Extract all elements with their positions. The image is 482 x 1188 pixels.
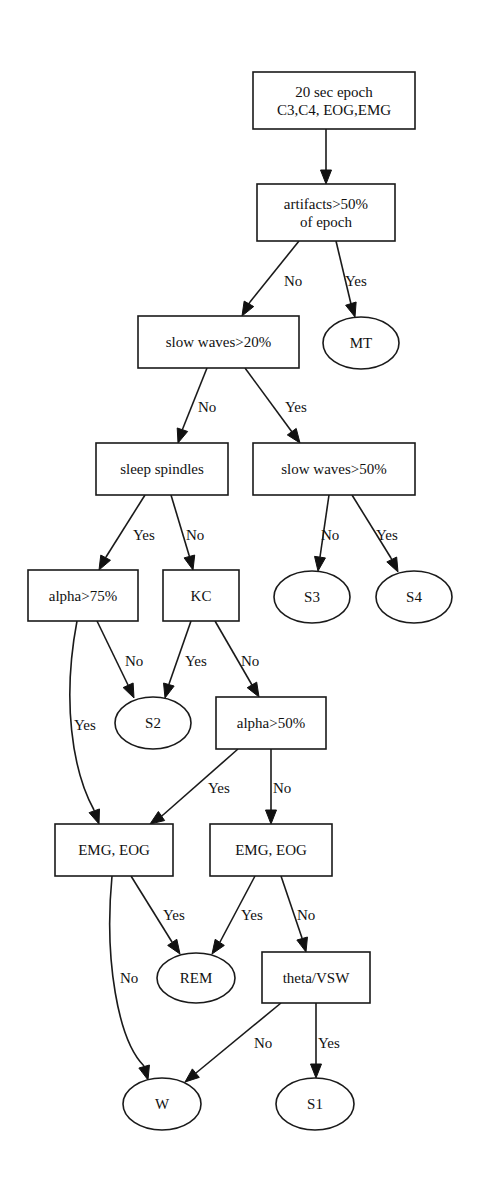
edge-sw20-to-spindles: No	[177, 368, 216, 443]
arrowhead-icon	[164, 683, 175, 698]
arrowhead-icon	[242, 301, 254, 316]
decision-tree-diagram: NoYesNoYesYesNoNoYesNoYesNoYesNoYesYesYe…	[0, 0, 482, 1188]
node-W: W	[123, 1078, 201, 1130]
node-label: S2	[145, 715, 161, 731]
decision-box	[253, 72, 415, 129]
arrowhead-icon	[387, 557, 398, 572]
edge-line	[183, 368, 207, 428]
edge-label-yes: Yes	[133, 527, 155, 543]
node-label: slow waves>20%	[166, 334, 272, 350]
diagram-canvas: NoYesNoYesYesNoNoYesNoYesNoYesNoYesYesYe…	[0, 0, 482, 1188]
node-sw50: slow waves>50%	[253, 443, 415, 495]
edge-sw50-to-S3: No	[315, 495, 340, 571]
edge-label-yes: Yes	[345, 273, 367, 289]
node-label: 20 sec epoch	[295, 84, 373, 100]
edge-label-no: No	[321, 527, 339, 543]
edge-spindles-to-KC: No	[171, 495, 204, 570]
nodes-layer: 20 sec epochC3,C4, EOG,EMGartifacts>50%o…	[28, 72, 452, 1130]
edge-label-no: No	[284, 273, 302, 289]
node-label: W	[155, 1096, 170, 1112]
node-REM: REM	[157, 953, 235, 1003]
arrowhead-icon	[150, 812, 165, 824]
arrowhead-icon	[346, 302, 357, 317]
edge-label-no: No	[186, 527, 204, 543]
edge-label-no: No	[120, 970, 138, 986]
node-label: theta/VSW	[283, 970, 350, 986]
node-label: slow waves>50%	[281, 461, 387, 477]
arrowhead-icon	[139, 1065, 150, 1080]
arrowhead-icon	[266, 810, 277, 824]
edge-label-yes: Yes	[163, 907, 185, 923]
arrowhead-icon	[212, 939, 224, 954]
edge-artifacts-to-sw20: No	[242, 241, 302, 316]
edge-label-yes: Yes	[241, 907, 263, 923]
node-label: alpha>75%	[49, 588, 117, 604]
node-label: REM	[180, 970, 213, 986]
node-label: of epoch	[300, 214, 353, 230]
node-label: artifacts>50%	[284, 196, 368, 212]
edge-sw50-to-S4: Yes	[352, 495, 398, 572]
arrowhead-icon	[287, 428, 300, 443]
node-S1: S1	[276, 1078, 354, 1130]
node-label: C3,C4, EOG,EMG	[277, 102, 391, 118]
edge-line	[250, 241, 299, 302]
edge-emgR-to-REM: Yes	[212, 876, 263, 954]
edge-emgR-to-theta: No	[281, 876, 315, 952]
decision-box	[257, 184, 395, 241]
edge-alpha75-to-S2: No	[97, 621, 143, 698]
arrowhead-icon	[297, 937, 308, 952]
arrowhead-icon	[168, 939, 180, 954]
edge-theta-to-W: No	[185, 1003, 281, 1082]
arrowhead-icon	[184, 555, 195, 570]
node-artifacts: artifacts>50%of epoch	[257, 184, 395, 241]
edge-alpha50-to-emgL: Yes	[150, 749, 238, 824]
node-S3: S3	[274, 571, 350, 623]
node-spindles: sleep spindles	[96, 443, 228, 495]
node-MT: MT	[323, 317, 399, 369]
edge-alpha50-to-emgR: No	[266, 749, 292, 824]
node-emgL: EMG, EOG	[55, 824, 173, 876]
edge-alpha75-to-emgL: Yes	[70, 621, 100, 824]
node-emgR: EMG, EOG	[210, 824, 332, 876]
arrowhead-icon	[177, 428, 187, 443]
edge-epoch-to-artifacts	[321, 129, 332, 184]
arrowhead-icon	[185, 1069, 199, 1082]
arrowhead-icon	[315, 556, 326, 571]
node-epoch: 20 sec epochC3,C4, EOG,EMG	[253, 72, 415, 129]
node-label: EMG, EOG	[235, 842, 307, 858]
node-S2: S2	[115, 697, 191, 749]
node-label: S1	[307, 1096, 323, 1112]
node-theta: theta/VSW	[262, 952, 370, 1003]
edge-spindles-to-alpha75: Yes	[99, 495, 155, 570]
edge-label-yes: Yes	[74, 717, 96, 733]
edge-label-no: No	[254, 1035, 272, 1051]
arrowhead-icon	[321, 170, 332, 184]
edge-artifacts-to-MT: Yes	[336, 241, 367, 317]
edge-label-no: No	[125, 653, 143, 669]
arrowhead-icon	[99, 555, 110, 570]
edge-line	[106, 495, 145, 557]
node-label: EMG, EOG	[78, 842, 150, 858]
edge-line	[320, 495, 329, 557]
edge-label-no: No	[198, 399, 216, 415]
node-label: S4	[406, 589, 422, 605]
edge-line	[70, 621, 94, 810]
node-label: MT	[350, 335, 373, 351]
node-KC: KC	[163, 570, 239, 621]
edge-KC-to-S2: Yes	[164, 621, 207, 698]
node-label: alpha>50%	[237, 715, 305, 731]
edge-line	[171, 495, 189, 555]
edge-label-yes: Yes	[208, 780, 230, 796]
arrowhead-icon	[247, 682, 259, 697]
node-alpha50: alpha>50%	[216, 697, 326, 749]
node-S4: S4	[376, 571, 452, 623]
edge-label-no: No	[241, 653, 259, 669]
node-label: S3	[304, 589, 320, 605]
edge-label-no: No	[273, 780, 291, 796]
node-label: KC	[191, 588, 212, 604]
edge-label-yes: Yes	[376, 527, 398, 543]
edge-emgL-to-W: No	[110, 876, 150, 1080]
node-sw20: slow waves>20%	[138, 316, 299, 368]
arrowhead-icon	[89, 809, 99, 824]
edge-emgL-to-REM: Yes	[131, 876, 185, 954]
